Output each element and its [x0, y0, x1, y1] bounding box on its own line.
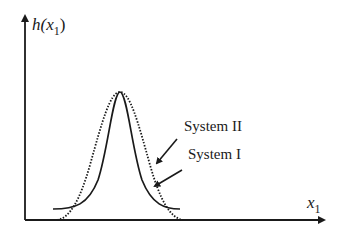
- system-i-arrow: [155, 170, 182, 186]
- system-i-label: System I: [188, 146, 241, 162]
- system-ii-curve: [57, 92, 183, 220]
- distribution-diagram: h(x1) x1 System II System I: [0, 0, 340, 235]
- system-ii-label: System II: [184, 118, 242, 134]
- x-axis-label: x1: [306, 193, 321, 216]
- y-axis-label: h(x1): [32, 15, 65, 38]
- system-i-curve: [53, 92, 180, 209]
- system-ii-arrow: [157, 139, 177, 163]
